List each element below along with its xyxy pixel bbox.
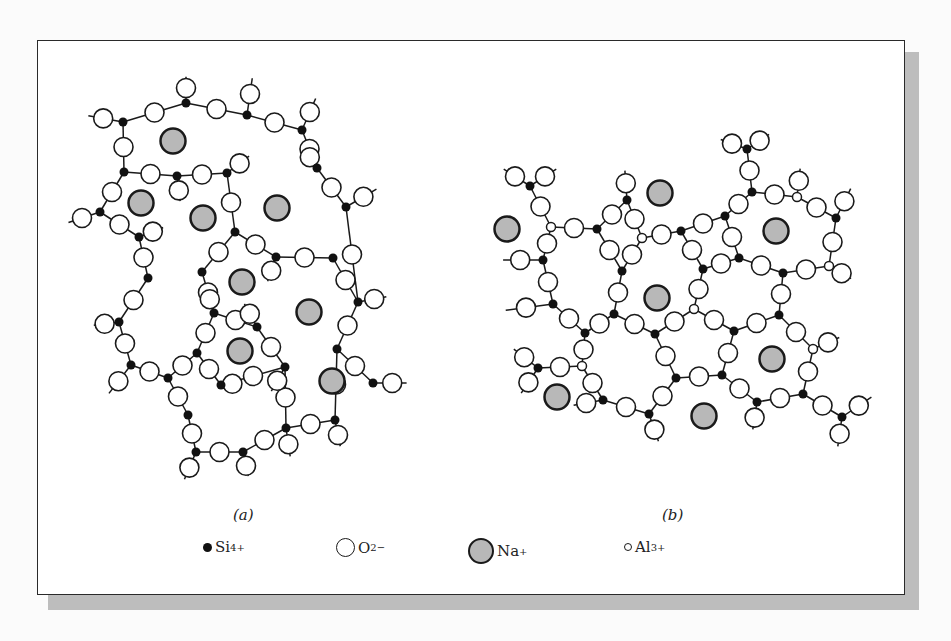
bridging-oxygen-ion bbox=[140, 362, 159, 381]
sodium-ion bbox=[297, 300, 322, 325]
bridging-oxygen-ion bbox=[747, 314, 766, 333]
bridging-oxygen-ion bbox=[603, 205, 622, 224]
bridging-oxygen-ion bbox=[551, 358, 570, 377]
silicon-ion bbox=[539, 256, 548, 265]
silicon-ion bbox=[838, 413, 847, 422]
bridging-oxygen-ion bbox=[262, 338, 281, 357]
bridging-oxygen-ion bbox=[531, 197, 550, 216]
aluminum-ion-icon bbox=[624, 543, 632, 551]
oxygen-ion-icon bbox=[336, 538, 355, 557]
silicon-ion bbox=[735, 254, 744, 263]
aluminum-ion bbox=[825, 262, 834, 271]
nonbridging-oxygen-ion bbox=[511, 251, 530, 270]
sodium-ion-icon bbox=[468, 538, 494, 564]
bridging-oxygen-ion bbox=[690, 367, 709, 386]
legend-item-oxygen: O2− bbox=[336, 538, 385, 557]
panel-b-aluminosilicate-network bbox=[495, 131, 872, 446]
bridging-oxygen-ion bbox=[265, 113, 284, 132]
sodium-ion bbox=[760, 347, 785, 372]
bridging-oxygen-ion bbox=[145, 103, 164, 122]
bridging-oxygen-ion bbox=[538, 234, 557, 253]
silicon-ion bbox=[173, 172, 182, 181]
legend-label: O bbox=[358, 539, 370, 557]
nonbridging-oxygen-ion bbox=[745, 408, 764, 427]
bridging-oxygen-ion bbox=[617, 398, 636, 417]
bridging-oxygen-ion bbox=[730, 379, 749, 398]
bridging-oxygen-ion bbox=[799, 362, 818, 381]
bridging-oxygen-ion bbox=[560, 309, 579, 328]
bridging-oxygen-ion bbox=[255, 431, 274, 450]
bridging-oxygen-ion bbox=[173, 356, 192, 375]
nonbridging-oxygen-ion bbox=[383, 374, 402, 393]
sodium-ion bbox=[645, 286, 670, 311]
panel-a-caption: (a) bbox=[233, 506, 254, 524]
bridging-oxygen-ion bbox=[246, 235, 265, 254]
silicon-ion bbox=[799, 390, 808, 399]
bridging-oxygen-ion bbox=[653, 387, 672, 406]
aluminum-ion bbox=[547, 223, 556, 232]
sodium-ion bbox=[545, 385, 570, 410]
bridging-oxygen-ion bbox=[169, 387, 188, 406]
bridging-oxygen-ion bbox=[729, 195, 748, 214]
silicon-ion bbox=[651, 330, 660, 339]
nonbridging-oxygen-ion bbox=[329, 426, 348, 445]
silicon-ion bbox=[298, 126, 307, 135]
nonbridging-oxygen-ion bbox=[241, 85, 260, 104]
nonbridging-oxygen-ion bbox=[230, 154, 249, 173]
silicon-ion bbox=[549, 300, 558, 309]
silicon-ion bbox=[217, 381, 226, 390]
panel-a-sodium-silicate-network bbox=[69, 77, 407, 480]
legend-charge: 3+ bbox=[651, 542, 666, 553]
bridging-oxygen-ion bbox=[222, 193, 241, 212]
nonbridging-oxygen-ion bbox=[536, 167, 555, 186]
silicon-ion bbox=[779, 269, 788, 278]
bridging-oxygen-ion bbox=[193, 165, 212, 184]
sodium-ion bbox=[764, 219, 789, 244]
silicon-ion bbox=[526, 182, 535, 191]
silicon-ion bbox=[119, 118, 128, 127]
bridging-oxygen-ion bbox=[719, 344, 738, 363]
bridging-oxygen-ion bbox=[723, 228, 742, 247]
bridging-oxygen-ion bbox=[338, 316, 357, 335]
sodium-ion bbox=[228, 339, 253, 364]
bridging-oxygen-ion bbox=[765, 185, 784, 204]
silicon-ion bbox=[313, 164, 322, 173]
silicon-ion bbox=[193, 349, 202, 358]
bridging-oxygen-ion bbox=[574, 340, 593, 359]
bridging-oxygen-ion bbox=[200, 360, 219, 379]
silicon-ion bbox=[775, 311, 784, 320]
nonbridging-oxygen-ion bbox=[616, 174, 635, 193]
bridging-oxygen-ion bbox=[813, 396, 832, 415]
bridging-oxygen-ion bbox=[141, 165, 160, 184]
bridging-oxygen-ion bbox=[209, 243, 228, 262]
nonbridging-oxygen-ion bbox=[268, 371, 287, 390]
nonbridging-oxygen-ion bbox=[279, 435, 298, 454]
nonbridging-oxygen-ion bbox=[73, 209, 92, 228]
bridging-oxygen-ion bbox=[301, 415, 320, 434]
silicon-ion bbox=[329, 254, 338, 263]
legend-charge: + bbox=[519, 546, 527, 557]
sodium-ion bbox=[129, 191, 154, 216]
bridging-oxygen-ion bbox=[705, 311, 724, 330]
silicon-ion bbox=[677, 227, 686, 236]
nonbridging-oxygen-ion bbox=[354, 187, 373, 206]
nonbridging-oxygen-ion bbox=[200, 290, 219, 309]
silicon-ion bbox=[253, 323, 262, 332]
bridging-oxygen-ion bbox=[116, 334, 135, 353]
sodium-ion bbox=[495, 217, 520, 242]
silicon-ion bbox=[534, 364, 543, 373]
nonbridging-oxygen-ion bbox=[750, 131, 769, 150]
silicon-ion bbox=[184, 411, 193, 420]
legend-charge: 2− bbox=[370, 542, 385, 553]
nonbridging-oxygen-ion bbox=[300, 103, 319, 122]
nonbridging-oxygen-ion bbox=[143, 222, 162, 241]
sodium-ion bbox=[648, 181, 673, 206]
silicon-ion bbox=[753, 398, 762, 407]
silicon-ion bbox=[239, 448, 248, 457]
bridging-oxygen-ion bbox=[694, 214, 713, 233]
bridging-oxygen-ion bbox=[210, 443, 229, 462]
silicon-ion-icon bbox=[203, 543, 212, 552]
bridging-oxygen-ion bbox=[590, 314, 609, 333]
silicon-ion bbox=[127, 361, 136, 370]
bridging-oxygen-ion bbox=[771, 389, 790, 408]
